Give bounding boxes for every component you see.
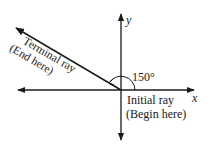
x-axis-label: x bbox=[191, 91, 198, 105]
angle-diagram: y x 150° Terminal ray (End here) Initial… bbox=[0, 0, 209, 152]
angle-label: 150° bbox=[132, 70, 155, 84]
initial-ray-sublabel: (Begin here) bbox=[126, 107, 186, 121]
initial-ray-label: Initial ray bbox=[127, 93, 174, 107]
y-axis-label: y bbox=[125, 13, 132, 27]
